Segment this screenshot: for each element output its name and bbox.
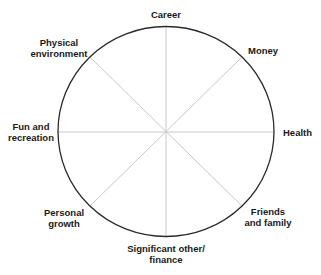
- label-fun-and-recreation: Fun and recreation: [8, 121, 54, 143]
- label-personal-growth: Personal growth: [44, 207, 84, 229]
- label-physical-environment: Physical environment: [30, 37, 87, 59]
- label-friends-line2: and family: [245, 217, 292, 228]
- label-significant-line1: Significant other/: [127, 243, 205, 254]
- label-significant-other-finance: Significant other/ finance: [127, 243, 205, 265]
- label-friends-line1: Friends: [245, 206, 292, 217]
- label-money: Money: [248, 45, 278, 56]
- label-health: Health: [283, 127, 312, 138]
- label-career-line1: Career: [151, 9, 181, 20]
- label-fun-line1: Fun and: [8, 121, 54, 132]
- label-physical-line2: environment: [30, 48, 87, 59]
- label-personal-line2: growth: [44, 218, 84, 229]
- label-significant-line2: finance: [127, 254, 205, 265]
- label-money-line1: Money: [248, 45, 278, 56]
- label-career: Career: [151, 9, 181, 20]
- label-physical-line1: Physical: [30, 37, 87, 48]
- spokes: [58, 27, 274, 236]
- label-personal-line1: Personal: [44, 207, 84, 218]
- label-health-line1: Health: [283, 127, 312, 138]
- label-friends-and-family: Friends and family: [245, 206, 292, 228]
- label-fun-line2: recreation: [8, 132, 54, 143]
